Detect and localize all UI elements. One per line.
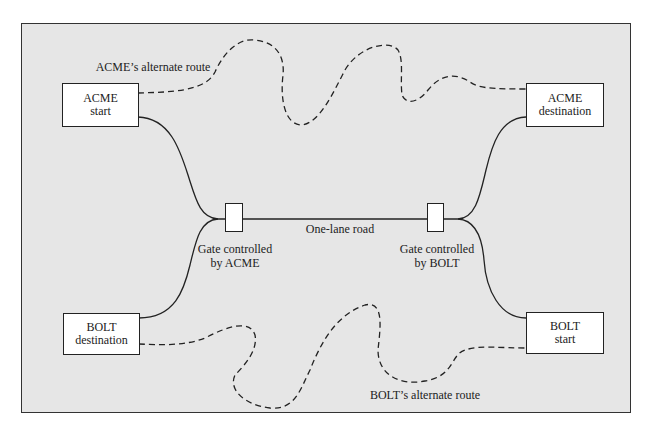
acme-destination-label-line2: destination (539, 105, 592, 118)
acme-gate-label-line2: by ACME (190, 256, 280, 270)
one-lane-road-label: One-lane road (290, 222, 390, 236)
bolt-destination-box: BOLT destination (63, 313, 140, 355)
road-acme-start-to-junction (138, 117, 218, 219)
bolt-gate (427, 203, 444, 232)
acme-start-label-line2: start (90, 105, 111, 118)
bolt-destination-label-line2: destination (75, 334, 128, 347)
acme-destination-box: ACME destination (526, 83, 604, 127)
bolt-gate-label: Gate controlled by BOLT (392, 242, 482, 270)
acme-gate (225, 203, 243, 232)
bolt-alternate-route-label: BOLT’s alternate route (360, 388, 490, 402)
acme-start-box: ACME start (62, 83, 139, 127)
acme-gate-label: Gate controlled by ACME (190, 242, 280, 270)
road-junction-to-acme-dest (458, 117, 526, 219)
acme-gate-label-line1: Gate controlled (190, 242, 280, 256)
bolt-gate-label-line1: Gate controlled (392, 242, 482, 256)
acme-alternate-route (138, 40, 526, 125)
acme-alternate-route-label: ACME’s alternate route (88, 60, 218, 74)
bolt-start-box: BOLT start (526, 312, 604, 354)
bolt-start-label-line2: start (555, 333, 576, 346)
bolt-gate-label-line2: by BOLT (392, 256, 482, 270)
